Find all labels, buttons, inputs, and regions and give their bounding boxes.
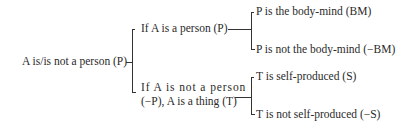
branch-thing-line1: If A is not a person — [141, 81, 246, 94]
branch-person: If A is a person (P) — [141, 22, 228, 35]
bracket-person-top-tick — [251, 12, 254, 13]
leaf-not-self-produced: T is not self-produced (−S) — [256, 108, 380, 121]
thing-connector — [235, 97, 251, 98]
bracket-level1-bottom-tick — [132, 92, 136, 93]
person-connector — [228, 29, 251, 30]
leaf-body-mind: P is the body-mind (BM) — [256, 5, 371, 18]
branch-thing-line2: (−P), A is a thing (T) — [141, 95, 237, 108]
bracket-thing — [251, 77, 252, 115]
root-node: A is/is not a person (P) — [22, 55, 127, 68]
bracket-thing-top-tick — [251, 77, 254, 78]
bracket-level1 — [132, 29, 133, 93]
bracket-level1-top-tick — [132, 29, 135, 30]
leaf-not-body-mind: P is not the body-mind (−BM) — [256, 43, 395, 56]
bracket-person-bottom-tick — [251, 49, 255, 50]
bracket-person — [251, 12, 252, 50]
bracket-thing-bottom-tick — [251, 114, 255, 115]
leaf-self-produced: T is self-produced (S) — [256, 70, 356, 83]
